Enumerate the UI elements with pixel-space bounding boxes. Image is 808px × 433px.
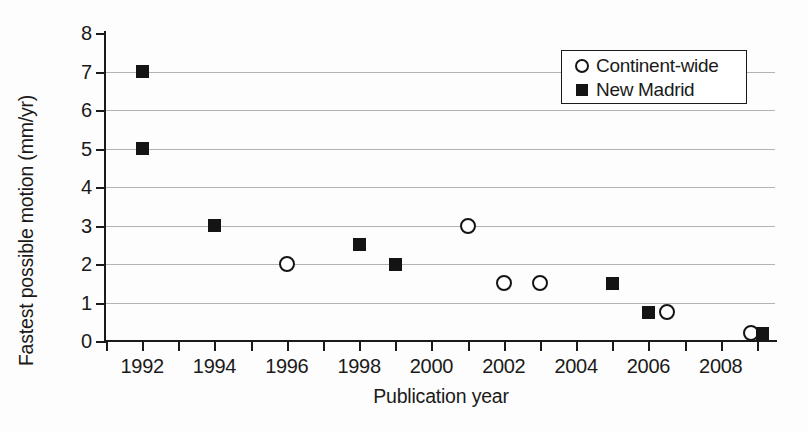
data-point-new-madrid bbox=[136, 65, 149, 78]
data-point-continent-wide bbox=[279, 256, 295, 272]
y-tick-label: 8 bbox=[14, 23, 92, 43]
y-tick bbox=[96, 149, 105, 151]
y-tick bbox=[96, 187, 105, 189]
data-point-continent-wide bbox=[532, 275, 548, 291]
x-tick bbox=[612, 342, 614, 351]
y-tick-label: 1 bbox=[14, 293, 92, 313]
x-tick bbox=[359, 342, 361, 351]
chart-figure: Fastest possible motion (mm/yr) Publicat… bbox=[0, 0, 808, 433]
open-circle-icon bbox=[571, 59, 593, 73]
filled-square-icon bbox=[571, 84, 593, 96]
x-tick bbox=[395, 342, 397, 351]
legend-item-new-madrid: New Madrid bbox=[571, 78, 746, 102]
x-tick bbox=[251, 342, 253, 351]
x-tick bbox=[648, 342, 650, 351]
y-tick-label: 7 bbox=[14, 62, 92, 82]
data-point-continent-wide bbox=[496, 275, 512, 291]
data-point-new-madrid bbox=[756, 327, 769, 340]
x-tick-label: 1992 bbox=[107, 355, 177, 378]
x-axis-title: Publication year bbox=[106, 385, 776, 408]
y-tick bbox=[96, 303, 105, 305]
x-tick bbox=[287, 342, 289, 351]
x-tick-label: 2006 bbox=[613, 355, 683, 378]
data-point-new-madrid bbox=[389, 258, 402, 271]
x-axis-line bbox=[104, 340, 777, 342]
x-tick bbox=[142, 342, 144, 351]
y-tick-label: 2 bbox=[14, 254, 92, 274]
data-point-new-madrid bbox=[642, 306, 655, 319]
data-point-continent-wide bbox=[460, 218, 476, 234]
x-tick-label: 1994 bbox=[179, 355, 249, 378]
x-tick bbox=[214, 342, 216, 351]
x-tick bbox=[576, 342, 578, 351]
x-tick-label: 2004 bbox=[541, 355, 611, 378]
y-tick-label: 4 bbox=[14, 177, 92, 197]
data-point-new-madrid bbox=[208, 219, 221, 232]
x-tick-label: 2008 bbox=[686, 355, 756, 378]
data-point-new-madrid bbox=[606, 277, 619, 290]
x-tick-label: 2000 bbox=[396, 355, 466, 378]
x-tick bbox=[540, 342, 542, 351]
y-tick-label: 6 bbox=[14, 100, 92, 120]
data-point-new-madrid bbox=[136, 142, 149, 155]
legend-label: New Madrid bbox=[593, 79, 694, 101]
gridline bbox=[106, 110, 775, 111]
x-tick bbox=[721, 342, 723, 351]
x-tick-label: 1996 bbox=[252, 355, 322, 378]
x-tick-label: 1998 bbox=[324, 355, 394, 378]
x-tick bbox=[468, 342, 470, 351]
y-tick bbox=[96, 33, 105, 35]
y-tick bbox=[96, 72, 105, 74]
x-tick bbox=[178, 342, 180, 351]
y-tick-label: 3 bbox=[14, 216, 92, 236]
legend: Continent-wide New Madrid bbox=[561, 50, 747, 104]
x-tick bbox=[685, 342, 687, 351]
x-tick bbox=[431, 342, 433, 351]
legend-label: Continent-wide bbox=[593, 55, 719, 77]
y-tick bbox=[96, 110, 105, 112]
x-tick bbox=[106, 342, 108, 351]
y-tick bbox=[96, 264, 105, 266]
x-tick bbox=[757, 342, 759, 351]
x-tick-label: 2002 bbox=[469, 355, 539, 378]
legend-item-continent-wide: Continent-wide bbox=[571, 54, 746, 78]
x-tick bbox=[504, 342, 506, 351]
y-tick bbox=[96, 226, 105, 228]
data-point-new-madrid bbox=[353, 238, 366, 251]
y-tick bbox=[96, 341, 105, 343]
x-tick bbox=[323, 342, 325, 351]
data-point-continent-wide bbox=[659, 304, 675, 320]
gridline bbox=[106, 264, 775, 265]
y-tick-label: 5 bbox=[14, 139, 92, 159]
y-tick-label: 0 bbox=[14, 331, 92, 351]
gridline bbox=[106, 303, 775, 304]
gridline bbox=[106, 187, 775, 188]
gridline bbox=[106, 226, 775, 227]
gridline bbox=[106, 149, 775, 150]
